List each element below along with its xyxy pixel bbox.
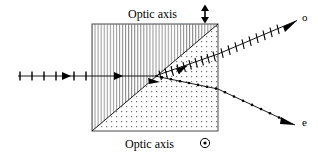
vertical-double-arrow-icon xyxy=(201,5,209,24)
ordinary-ray-arrowhead xyxy=(283,21,297,33)
incident-ray-arrowhead xyxy=(62,72,71,80)
optics-diagram: Optic axis Optic axis o e xyxy=(0,0,318,157)
extraordinary-ray-label: e xyxy=(302,117,307,128)
ordinary-ray-label: o xyxy=(302,12,308,23)
bottom-optic-axis-label: Optic axis xyxy=(125,138,174,150)
diagram-canvas xyxy=(0,0,318,157)
top-optic-axis-label: Optic axis xyxy=(128,8,177,20)
extraordinary-ray-arrowhead xyxy=(280,117,295,125)
circled-dot-icon xyxy=(200,138,209,147)
